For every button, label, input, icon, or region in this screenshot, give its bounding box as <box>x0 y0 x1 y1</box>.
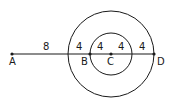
point-label-c: C <box>107 56 114 67</box>
length-label-a-outer: 8 <box>43 41 49 52</box>
point-b <box>88 52 91 55</box>
length-label-inner-d: 4 <box>139 41 145 52</box>
point-label-d: D <box>157 56 165 67</box>
length-label-b-c: 4 <box>97 41 103 52</box>
point-label-b: B <box>81 56 88 67</box>
length-label-outer-b: 4 <box>76 41 82 52</box>
point-d <box>152 52 155 55</box>
point-label-a: A <box>9 56 16 67</box>
geometry-diagram: A B C D 8 4 4 4 4 <box>0 0 171 106</box>
length-label-c-inner: 4 <box>118 41 124 52</box>
